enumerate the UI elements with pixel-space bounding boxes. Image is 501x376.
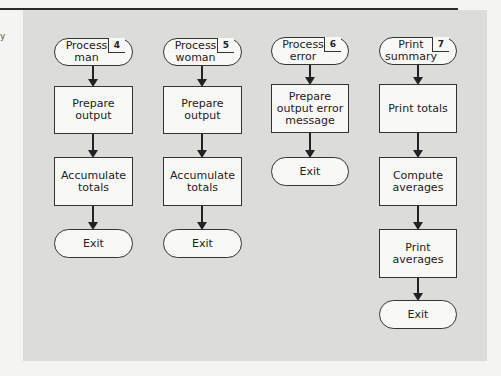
module-number-badge: 6 — [324, 37, 341, 52]
flow-arrow — [309, 133, 311, 156]
start-terminal: Process man 4 — [54, 38, 133, 66]
start-terminal: Print summary 7 — [379, 37, 457, 65]
process-box: Print averages — [379, 229, 457, 278]
start-terminal: Process woman 5 — [163, 38, 242, 66]
flow-arrow — [417, 278, 419, 299]
flow-arrow — [201, 66, 203, 85]
process-box: Print totals — [379, 84, 457, 133]
flow-arrow — [92, 134, 94, 156]
module-number-badge: 7 — [432, 37, 449, 52]
exit-terminal: Exit — [163, 229, 242, 258]
module-number-badge: 5 — [217, 38, 234, 53]
exit-terminal: Exit — [54, 229, 133, 258]
process-box: Accumulate totals — [54, 157, 133, 206]
flow-arrow — [201, 134, 203, 156]
flow-arrow — [417, 206, 419, 228]
flow-arrow — [417, 65, 419, 83]
flow-arrow — [417, 133, 419, 156]
process-box: Prepare output — [163, 86, 242, 134]
flow-arrow — [309, 65, 311, 83]
flow-arrow — [92, 66, 94, 85]
exit-terminal: Exit — [379, 300, 457, 329]
flow-arrow — [92, 206, 94, 228]
flow-arrow — [201, 206, 203, 228]
margin-mark: y — [0, 31, 5, 41]
module-number-badge: 4 — [108, 38, 125, 53]
process-box: Accumulate totals — [163, 157, 242, 206]
process-box: Compute averages — [379, 157, 457, 206]
process-box: Prepare output error message — [271, 84, 349, 133]
start-terminal: Process error 6 — [271, 37, 349, 65]
process-box: Prepare output — [54, 86, 133, 134]
exit-terminal: Exit — [271, 157, 349, 186]
